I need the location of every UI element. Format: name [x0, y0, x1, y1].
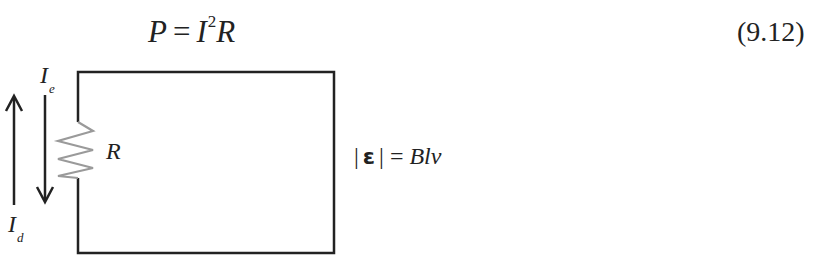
label-induced-current: Ie	[40, 62, 55, 93]
circuit-diagram	[0, 0, 827, 263]
label-resistor: R	[106, 138, 121, 165]
emf-equation: |ε|=Blv	[354, 143, 441, 170]
resistor-icon	[58, 122, 93, 178]
label-drive-current: Id	[8, 211, 24, 242]
epsilon-symbol: ε	[363, 144, 375, 169]
arrow-down-icon	[37, 95, 53, 202]
arrow-up-icon	[6, 96, 22, 205]
